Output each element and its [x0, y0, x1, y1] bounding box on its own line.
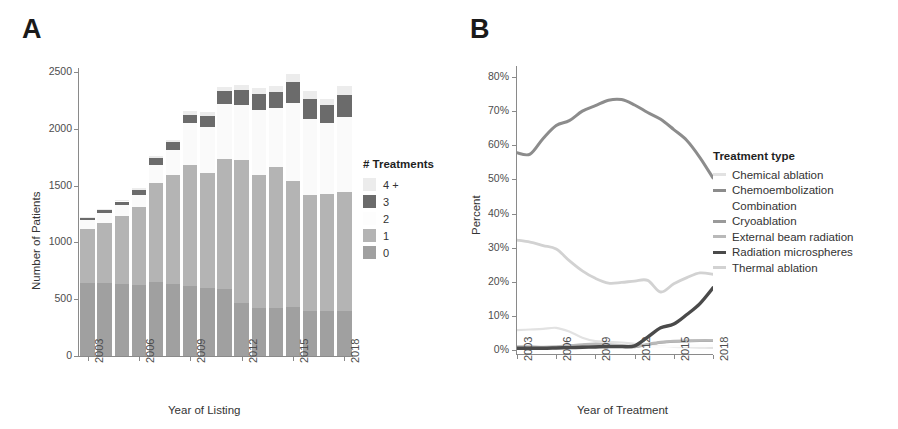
legend-item-combination[interactable]: Combination — [713, 198, 853, 214]
panel-a-y-tick-label: 0 — [28, 349, 72, 361]
bar-segment-1 — [132, 207, 146, 285]
legend-line-swatch-icon — [713, 266, 726, 269]
panel-b-y-tick-label: 10% — [465, 309, 509, 321]
panel-b-y-tick-label: 50% — [465, 172, 509, 184]
panel-a-x-axis-title: Year of Listing — [168, 404, 240, 416]
bar-2011 — [217, 60, 231, 356]
legend-item-label: Thermal ablation — [732, 262, 818, 274]
bar-segment-3 — [269, 92, 283, 108]
panel-a-y-tick-label: 500 — [28, 292, 72, 304]
line-thermal-ablation — [517, 240, 713, 292]
bar-2016 — [303, 60, 317, 356]
bar-2014 — [269, 60, 283, 356]
panel-b-x-tick-label: 2009 — [600, 337, 612, 361]
panel-b-x-axis-title: Year of Treatment — [577, 404, 668, 416]
panel-a-y-tick-label: 1500 — [28, 179, 72, 191]
legend-item-radiation-microspheres[interactable]: Radiation microspheres — [713, 245, 853, 261]
bar-segment-1 — [303, 195, 317, 311]
panel-a-y-tick-label: 1000 — [28, 235, 72, 247]
panel-a-x-tick — [242, 357, 243, 361]
bar-segment-1 — [200, 173, 214, 288]
legend-swatch-icon — [363, 178, 376, 191]
bar-segment-3 — [234, 90, 248, 105]
bar-segment-4 — [320, 99, 334, 105]
panel-b-x-tick — [713, 355, 714, 359]
panel-b-x-tick-label: 2018 — [718, 337, 730, 361]
panel-b-y-tick-label: 70% — [465, 104, 509, 116]
legend-item-label: Radiation microspheres — [732, 246, 853, 258]
bar-segment-3 — [166, 142, 180, 149]
legend-item-0[interactable]: 0 — [363, 245, 434, 260]
bar-segment-1 — [80, 229, 94, 283]
panel-a-x-tick — [139, 357, 140, 361]
bar-segment-3 — [337, 95, 351, 117]
panel-b-lines — [517, 66, 713, 354]
panel-a-x-tick — [344, 357, 345, 361]
panel-a-label: A — [22, 14, 42, 45]
bar-segment-3 — [320, 105, 334, 123]
panel-b-x-tick-label: 2003 — [522, 337, 534, 361]
panel-b-y-tick-label: 20% — [465, 275, 509, 287]
bar-segment-1 — [149, 183, 163, 282]
legend-line-swatch-icon — [713, 173, 726, 176]
panel-a-legend-items: 4 +3210 — [363, 177, 434, 260]
bar-segment-2 — [115, 205, 129, 215]
legend-item-1[interactable]: 1 — [363, 228, 434, 243]
legend-item-4[interactable]: 4 + — [363, 177, 434, 192]
panel-b-plot-area — [517, 66, 713, 354]
bar-segment-4 — [149, 156, 163, 158]
bar-2008 — [166, 60, 180, 356]
bar-segment-2 — [166, 150, 180, 176]
legend-swatch-icon — [363, 229, 376, 242]
bar-segment-4 — [132, 188, 146, 189]
bar-segment-3 — [183, 115, 197, 124]
panel-b-x-tick — [556, 355, 557, 359]
panel-b-label: B — [470, 14, 490, 45]
bar-segment-2 — [149, 165, 163, 184]
panel-a-legend-title: # Treatments — [363, 158, 434, 170]
panel-b-legend-items: Chemical ablationChemoembolizationCombin… — [713, 167, 853, 276]
legend-item-label: Combination — [732, 200, 797, 212]
legend-item-chemoembolization[interactable]: Chemoembolization — [713, 183, 853, 199]
bar-segment-4 — [115, 200, 129, 201]
bar-segment-3 — [115, 202, 129, 206]
bar-segment-4 — [337, 86, 351, 95]
line-chemoembolization — [517, 99, 713, 178]
bar-2013 — [252, 60, 266, 356]
panel-a-plot-area — [79, 60, 353, 356]
bar-segment-3 — [217, 91, 231, 103]
bar-2009 — [183, 60, 197, 356]
panel-b-y-tick-label: 0% — [465, 343, 509, 355]
bar-segment-1 — [217, 159, 231, 289]
bar-segment-4 — [252, 88, 266, 94]
bar-segment-2 — [132, 195, 146, 207]
bar-segment-1 — [183, 165, 197, 286]
bar-segment-0 — [269, 308, 283, 356]
legend-item-thermal-ablation[interactable]: Thermal ablation — [713, 260, 853, 276]
panel-b-legend: Treatment type Chemical ablationChemoemb… — [713, 150, 853, 276]
legend-item-2[interactable]: 2 — [363, 211, 434, 226]
panel-a-x-tick-label: 2006 — [144, 339, 156, 363]
legend-item-chemical-ablation[interactable]: Chemical ablation — [713, 167, 853, 183]
bar-segment-1 — [97, 223, 111, 283]
panel-b-x-tick-label: 2012 — [640, 337, 652, 361]
legend-line-swatch-icon — [713, 251, 726, 254]
legend-swatch-icon — [363, 212, 376, 225]
panel-a: A Number of Patients Year of Listing 050… — [0, 0, 449, 429]
bar-segment-0 — [115, 284, 129, 356]
legend-item-3[interactable]: 3 — [363, 194, 434, 209]
bar-segment-1 — [337, 192, 351, 311]
legend-item-cryoablation[interactable]: Cryoablation — [713, 214, 853, 230]
bar-2005 — [115, 60, 129, 356]
panel-a-x-tick — [293, 357, 294, 361]
legend-item-external-beam-radiation[interactable]: External beam radiation — [713, 229, 853, 245]
panel-a-x-tick-label: 2009 — [195, 339, 207, 363]
legend-swatch-icon — [363, 195, 376, 208]
bar-segment-2 — [217, 104, 231, 160]
bar-2003 — [80, 60, 94, 356]
bar-segment-3 — [252, 94, 266, 110]
bar-segment-2 — [80, 220, 94, 229]
bar-segment-4 — [80, 217, 94, 218]
legend-line-swatch-icon — [713, 204, 726, 207]
legend-item-label: 2 — [383, 213, 389, 225]
